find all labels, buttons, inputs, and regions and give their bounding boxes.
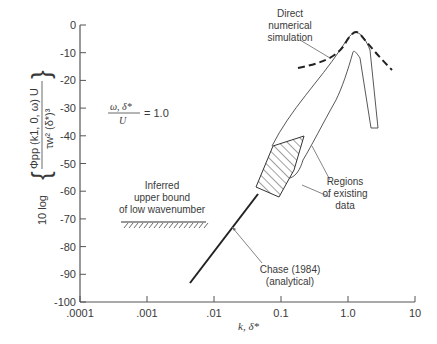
ylabel-brace-right: } xyxy=(26,70,56,79)
y-tick-label: -60 xyxy=(60,185,76,197)
ylabel-prefix: 10 log xyxy=(36,195,48,225)
y-tick-label: -70 xyxy=(60,213,76,225)
regions-label-3: data xyxy=(335,200,355,211)
dns-label-1: Direct xyxy=(277,8,303,19)
chase-label-1: Chase (1984) xyxy=(260,264,321,275)
y-tick-label: -40 xyxy=(60,130,76,142)
ylabel-brace-left: { xyxy=(26,171,56,180)
x-axis: .0001.001.010.11.010 xyxy=(66,296,421,319)
y-tick-label: -30 xyxy=(60,102,76,114)
y-tick-label: 0 xyxy=(70,19,76,31)
x-tick-label: .0001 xyxy=(66,307,94,319)
y-ticks: 0-10-20-30-40-50-60-70-80-90-100 xyxy=(54,19,86,308)
inferred-label-1: Inferred xyxy=(145,180,179,191)
y-tick-label: -50 xyxy=(60,158,76,170)
x-tick-label: 0.1 xyxy=(273,307,288,319)
parameter-label: ω, δ* U = 1.0 xyxy=(108,101,169,126)
chase-label-2: (analytical) xyxy=(266,276,314,287)
inferred-label-2: upper bound xyxy=(134,192,190,203)
ylabel-denominator: τw² (δ*)³ xyxy=(43,108,55,149)
param-numerator: ω, δ* xyxy=(110,101,132,112)
existing-data-hatched: Regions of existing data xyxy=(256,136,368,211)
chart-figure: 0-10-20-30-40-50-60-70-80-90-100 .0001.0… xyxy=(0,0,437,344)
param-value: = 1.0 xyxy=(144,107,169,119)
dns-label-2: numerical xyxy=(268,20,311,31)
dns-label-3: simulation xyxy=(267,32,312,43)
regions-label-1: Regions xyxy=(327,176,364,187)
inferred-bound-series: Inferred upper bound of low wavenumber xyxy=(119,180,208,228)
inferred-label-3: of low wavenumber xyxy=(119,204,206,215)
x-axis-label: k, δ* xyxy=(238,320,259,332)
y-tick-label: -80 xyxy=(60,241,76,253)
x-tick-label: .001 xyxy=(136,307,157,319)
y-tick-label: -90 xyxy=(60,268,76,280)
x-tick-label: 10 xyxy=(409,307,421,319)
ylabel-numerator: Φpp (k1, 0, ω) U xyxy=(28,88,40,169)
y-axis-label: 10 log { Φpp (k1, 0, ω) U τw² (δ*)³ } xyxy=(26,70,56,225)
x-tick-label: 1.0 xyxy=(340,307,355,319)
chase-series: Chase (1984) (analytical) xyxy=(190,194,320,287)
param-denominator: U xyxy=(119,115,127,126)
y-tick-label: -10 xyxy=(60,47,76,59)
y-tick-label: -20 xyxy=(60,74,76,86)
regions-label-2: of existing xyxy=(322,188,367,199)
y-axis: 0-10-20-30-40-50-60-70-80-90-100 xyxy=(54,19,86,308)
dns-series: Direct numerical simulation xyxy=(267,8,392,70)
x-ticks: .0001.001.010.11.010 xyxy=(66,296,421,319)
x-tick-label: .01 xyxy=(206,307,221,319)
